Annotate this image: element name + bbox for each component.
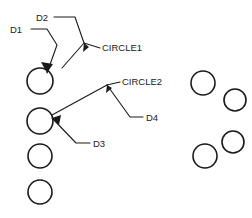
leader-d2[interactable]: D2 [36,12,84,43]
leader-d3[interactable]: D3 [52,115,105,149]
leader-d2-line [54,17,84,43]
leader-circle2-stem[interactable] [52,85,107,115]
leader-circle1-stem[interactable] [62,43,84,68]
right-circle-4[interactable] [193,144,217,168]
right-circle-3[interactable] [222,131,244,153]
right-circle-2[interactable] [224,89,246,111]
leader-circle1-label: CIRCLE1 [102,42,142,53]
left-circle-1[interactable] [27,68,53,94]
leader-circle2[interactable]: CIRCLE2 [106,76,162,93]
leader-circle1[interactable]: CIRCLE1 [83,42,142,53]
cad-drawing-canvas: D1D2CIRCLE1CIRCLE2D4D3 [0,0,252,218]
leader-circle2-stem-line [52,85,107,115]
right-circle-1[interactable] [191,71,215,95]
leader-d1-label: D1 [10,24,22,35]
leader-circle2-arrowhead-icon [106,85,112,93]
leader-d4-label: D4 [146,112,158,123]
circles-layer [27,68,246,204]
leader-d4[interactable]: D4 [107,85,158,123]
left-circle-4[interactable] [28,180,52,204]
leader-d1[interactable]: D1 [10,24,57,73]
leader-circle2-label: CIRCLE2 [122,76,162,87]
leader-circle2-line [107,82,120,85]
leader-d4-line [107,85,143,117]
leaders-layer: D1D2CIRCLE1CIRCLE2D4D3 [10,12,162,149]
leader-d3-label: D3 [93,138,105,149]
left-circle-3[interactable] [28,144,52,168]
left-circle-2[interactable] [27,108,53,134]
drawing-surface: D1D2CIRCLE1CIRCLE2D4D3 [0,0,252,218]
leader-circle1-stem-line [62,43,84,68]
leader-d2-label: D2 [36,12,48,23]
